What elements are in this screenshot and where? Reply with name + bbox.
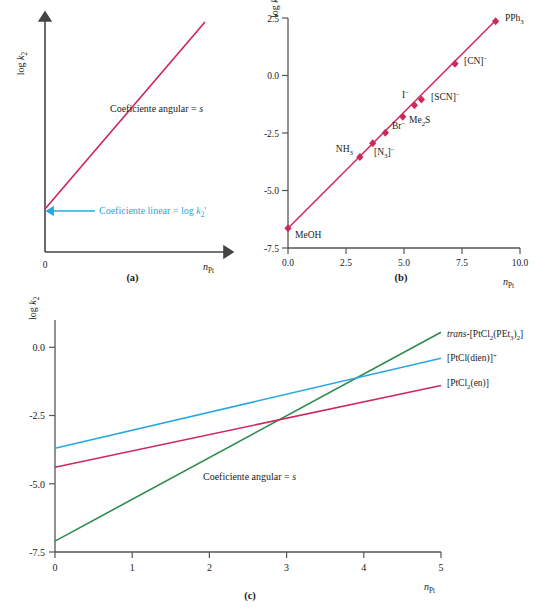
panel-b-y-axis-label: log k2 xyxy=(269,0,283,18)
panel-c-series-line-ptcldien xyxy=(55,358,441,448)
point-label-meoh: MeOH xyxy=(295,230,322,240)
panel-c-ytick-3: -7.5 xyxy=(29,547,45,558)
panel-c-ytick-2: -5.0 xyxy=(29,479,45,490)
panel-b-xtick-3: 7.5 xyxy=(456,258,468,268)
point-label-cn: [CN]− xyxy=(464,55,488,66)
panel-c-xtick-4: 4 xyxy=(361,562,366,573)
panel-b-xtick-2: 5.0 xyxy=(398,258,410,268)
panel-c-xtick-2: 2 xyxy=(207,562,212,573)
panel-c-slope-annotation: Coeficiente angular = s xyxy=(203,471,296,482)
panel-c-xtick-1: 1 xyxy=(130,562,135,573)
point-label-pph3: PPh3 xyxy=(505,13,524,25)
panel-b-xtick-4: 10.0 xyxy=(512,258,529,268)
panel-b-svg: 2.5 0.0 -2.5 -5.0 -7.5 0.0 2.5 5.0 7.5 1… xyxy=(265,0,537,300)
panel-b-ytick-2: -2.5 xyxy=(264,129,279,139)
panel-b-x-ticks: 0.0 2.5 5.0 7.5 10.0 xyxy=(282,248,529,268)
panel-b-ytick-3: -5.0 xyxy=(264,186,279,196)
panel-b-caption: (b) xyxy=(265,272,537,283)
legend-label-ptcl2en: [PtCl2(en)] xyxy=(447,378,489,390)
panel-b-ytick-4: -7.5 xyxy=(264,244,279,254)
data-point-marker xyxy=(411,101,418,109)
panel-c-xtick-5: 5 xyxy=(439,562,444,573)
data-point-marker xyxy=(451,60,458,68)
panel-a-intercept-annotation: Coeficiente linear = log k2' xyxy=(99,205,206,219)
panel-a-caption: (a) xyxy=(0,272,265,283)
legend-label-trans-ptcl2pet32: trans-[PtCl2(PEt3)2] xyxy=(447,329,523,341)
panel-c-ytick-1: -2.5 xyxy=(29,410,45,421)
panel-c-series-line-ptcl2en xyxy=(55,386,441,468)
panel-c-svg: 0.0 -2.5 -5.0 -7.5 0 1 2 3 4 5 log k2 nP… xyxy=(0,300,537,608)
panel-c-y-axis-label: log k2 xyxy=(27,296,41,320)
panel-a: log k2 nPt 0 Coeficiente angular = s Coe… xyxy=(0,0,265,300)
panel-b-y-ticks: 2.5 0.0 -2.5 -5.0 -7.5 xyxy=(264,14,288,254)
panel-c: 0.0 -2.5 -5.0 -7.5 0 1 2 3 4 5 log k2 nP… xyxy=(0,300,537,608)
panel-c-x-ticks: 0 1 2 3 4 5 xyxy=(53,552,444,573)
point-label-nh3: NH3 xyxy=(336,144,354,156)
legend-label-ptcldien: [PtCl(dien)]+ xyxy=(447,352,497,364)
panel-b-xtick-0: 0.0 xyxy=(282,258,294,268)
data-point-marker xyxy=(382,129,389,137)
panel-a-slope-annotation: Coeficiente angular = s xyxy=(110,103,203,114)
panel-a-trend-line xyxy=(45,22,205,209)
point-label-iodide: I− xyxy=(402,89,409,100)
panel-c-ytick-0: 0.0 xyxy=(33,342,46,353)
panel-c-y-ticks: 0.0 -2.5 -5.0 -7.5 xyxy=(29,342,55,558)
panel-c-xtick-0: 0 xyxy=(53,562,58,573)
panel-a-y-axis-label: log k2 xyxy=(15,52,29,76)
point-label-me2s: Me2S xyxy=(409,115,430,127)
point-label-scn: [SCN]− xyxy=(431,91,460,102)
panel-a-svg: log k2 nPt 0 Coeficiente angular = s Coe… xyxy=(0,0,265,300)
panel-b-xtick-1: 2.5 xyxy=(340,258,352,268)
point-label-azide: [N3]− xyxy=(374,146,395,159)
point-label-bromide: Br− xyxy=(392,120,406,131)
panel-b-ytick-1: 0.0 xyxy=(267,71,279,81)
panel-c-xtick-3: 3 xyxy=(284,562,289,573)
panel-c-caption: (c) xyxy=(0,590,500,601)
panel-b: 2.5 0.0 -2.5 -5.0 -7.5 0.0 2.5 5.0 7.5 1… xyxy=(265,0,537,300)
data-point-marker xyxy=(492,17,499,25)
panel-a-origin-tick: 0 xyxy=(43,260,48,270)
panel-c-series-line-trans-ptcl2pet32 xyxy=(55,332,441,541)
